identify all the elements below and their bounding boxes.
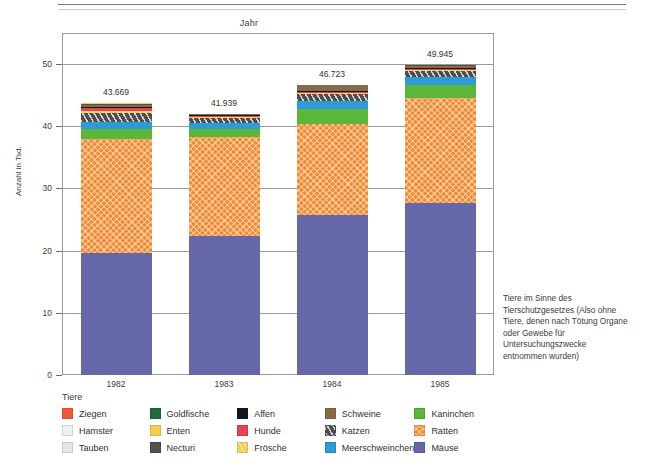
legend-item-label: Hamster (79, 426, 113, 436)
legend-item-hunde[interactable]: Hunde (237, 422, 325, 439)
legend-item-label: Ratten (431, 426, 458, 436)
plot-area (62, 33, 494, 375)
legend-item-schweine[interactable]: Schweine (325, 405, 415, 422)
legend-item-mäuse[interactable]: Mäuse (414, 439, 502, 456)
bar-segment-frösche[interactable] (81, 111, 152, 113)
y-axis-title: Anzahl in Tsd. (14, 146, 23, 196)
y-axis-tick-mark (56, 313, 62, 314)
legend-swatch-icon (62, 408, 73, 419)
bar-segment-ratten[interactable] (405, 98, 476, 203)
legend-item-label: Mäuse (431, 443, 458, 453)
legend-item-label: Affen (254, 409, 275, 419)
legend-item-goldfische[interactable]: Goldfische (150, 405, 238, 422)
legend-item-meerschweinchen[interactable]: Meerschweinchen (325, 439, 415, 456)
legend-item-kaninchen[interactable]: Kaninchen (414, 405, 502, 422)
legend-item-frösche[interactable]: Frösche (237, 439, 325, 456)
bar-segment-meerschweinchen[interactable] (297, 101, 368, 109)
bar-1982[interactable] (81, 33, 152, 375)
legend-item-affen[interactable]: Affen (237, 405, 325, 422)
legend-swatch-icon (62, 442, 73, 453)
bar-total-label: 46.723 (272, 69, 392, 79)
legend-item-label: Goldfische (167, 409, 210, 419)
legend-item-tauben[interactable]: Tauben (62, 439, 150, 456)
bar-segment-kaninchen[interactable] (189, 129, 260, 138)
legend-item-ratten[interactable]: Ratten (414, 422, 502, 439)
bar-segment-kaninchen[interactable] (405, 85, 476, 97)
bar-segment-schweine[interactable] (405, 65, 476, 68)
bar-segment-kaninchen[interactable] (297, 109, 368, 124)
legend-swatch-icon (414, 408, 425, 419)
legend-item-hamster[interactable]: Hamster (62, 422, 150, 439)
bar-segment-affen[interactable] (405, 68, 476, 69)
legend-swatch-icon (414, 425, 425, 436)
bar-segment-affen[interactable] (297, 91, 368, 92)
bar-segment-meerschweinchen[interactable] (81, 122, 152, 129)
y-axis-tick-label: 50 (26, 59, 52, 69)
legend-item-necturi[interactable]: Necturi (150, 439, 238, 456)
y-axis-tick-mark (56, 251, 62, 252)
bar-1985[interactable] (405, 33, 476, 375)
bar-1983[interactable] (189, 33, 260, 375)
bar-total-label: 43.669 (56, 87, 176, 97)
legend-swatch-icon (150, 425, 161, 436)
bar-segment-necturi[interactable] (81, 104, 152, 105)
stacked-bar-chart-figure: Jahr Anzahl in Tsd. 01020304050 43.66919… (0, 0, 646, 472)
bar-segment-mäuse[interactable] (189, 236, 260, 375)
bar-segment-meerschweinchen[interactable] (405, 77, 476, 85)
bar-segment-frösche[interactable] (297, 93, 368, 94)
bar-segment-hunde[interactable] (405, 69, 476, 70)
legend-swatch-icon (237, 442, 248, 453)
bar-segment-mäuse[interactable] (81, 253, 152, 375)
bar-1984[interactable] (297, 33, 368, 375)
bar-segment-hunde[interactable] (189, 116, 260, 117)
legend-item-label: Schweine (342, 409, 381, 419)
bar-segment-kaninchen[interactable] (81, 129, 152, 138)
bar-segment-mäuse[interactable] (297, 215, 368, 375)
x-axis-tick-label-1982: 1982 (56, 379, 176, 389)
legend-item-enten[interactable]: Enten (150, 422, 238, 439)
legend-item-label: Frösche (254, 443, 287, 453)
side-note: Tiere im Sinne des Tierschutzgesetzes (A… (503, 293, 631, 363)
legend-swatch-icon (150, 442, 161, 453)
bar-segment-katzen[interactable] (405, 71, 476, 77)
bar-segment-schweine[interactable] (189, 114, 260, 115)
bar-segment-affen[interactable] (81, 107, 152, 108)
bar-segment-necturi[interactable] (405, 65, 476, 66)
bar-segment-frösche[interactable] (405, 70, 476, 71)
bar-segment-ratten[interactable] (81, 139, 152, 253)
legend-item-label: Ziegen (79, 409, 107, 419)
legend-swatch-icon (325, 425, 336, 436)
bar-segment-hunde[interactable] (81, 108, 152, 110)
bar-segment-schweine[interactable] (297, 85, 368, 91)
bar-segment-katzen[interactable] (297, 94, 368, 101)
legend-swatch-icon (237, 425, 248, 436)
legend-item-label: Kaninchen (431, 409, 474, 419)
legend-swatch-icon (150, 408, 161, 419)
legend-item-label: Meerschweinchen (342, 443, 415, 453)
bar-segment-frösche[interactable] (189, 117, 260, 118)
legend-swatch-icon (414, 442, 425, 453)
legend-swatch-icon (237, 408, 248, 419)
legend-item-ziegen[interactable]: Ziegen (62, 405, 150, 422)
legend-item-katzen[interactable]: Katzen (325, 422, 415, 439)
x-axis-tick-label-1984: 1984 (272, 379, 392, 389)
bar-segment-katzen[interactable] (81, 113, 152, 122)
bar-segment-mäuse[interactable] (405, 203, 476, 375)
bar-segment-ratten[interactable] (297, 124, 368, 215)
bar-segment-ratten[interactable] (189, 137, 260, 236)
x-axis-title: Jahr (0, 18, 498, 28)
bar-total-label: 49.945 (380, 49, 500, 59)
legend-item-label: Necturi (167, 443, 196, 453)
bar-segment-katzen[interactable] (189, 118, 260, 123)
legend-title: Tiere (62, 392, 82, 402)
bar-segment-meerschweinchen[interactable] (189, 123, 260, 129)
bar-segment-schweine[interactable] (81, 104, 152, 106)
legend-swatch-icon (62, 425, 73, 436)
bar-segment-enten[interactable] (81, 103, 152, 104)
bar-total-label: 41.939 (164, 98, 284, 108)
bar-segment-hunde[interactable] (297, 91, 368, 92)
legend-item-label: Enten (167, 426, 191, 436)
bar-segment-affen[interactable] (189, 115, 260, 116)
legend-item-label: Tauben (79, 443, 109, 453)
y-axis-tick-mark (56, 126, 62, 127)
